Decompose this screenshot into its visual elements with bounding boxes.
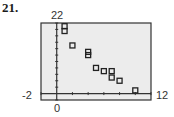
scatter-plot	[0, 0, 174, 117]
